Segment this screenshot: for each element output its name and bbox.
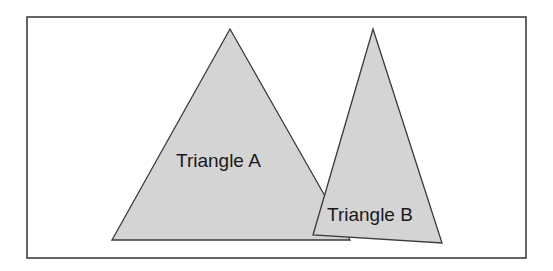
triangle-a-label: Triangle A — [176, 150, 261, 171]
diagram-canvas: Triangle A Triangle B — [0, 0, 553, 271]
triangle-a — [112, 29, 350, 240]
triangle-b-label: Triangle B — [327, 204, 413, 225]
